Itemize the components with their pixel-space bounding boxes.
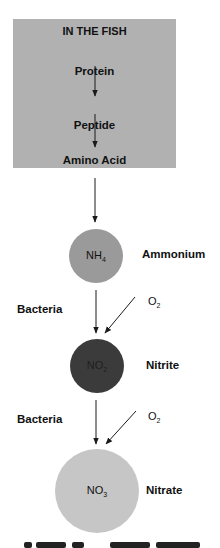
ammonium-circle: NH4 <box>69 229 123 283</box>
ammonium-label: Ammonium <box>142 248 205 260</box>
arrow-o2-nitrite <box>105 297 135 333</box>
bacteria-label-2: Bacteria <box>17 413 62 425</box>
o2-label-2: O2 <box>148 410 160 424</box>
ammonium-formula: NH4 <box>86 249 106 263</box>
nitrate-formula: NO3 <box>87 484 107 498</box>
cropped-caption-text <box>10 541 210 548</box>
nitrite-circle: NO2 <box>70 339 124 393</box>
o2-label-1: O2 <box>148 295 160 309</box>
nitrate-label: Nitrate <box>146 484 182 496</box>
nitrate-circle: NO3 <box>55 449 139 533</box>
bacteria-label-1: Bacteria <box>17 303 62 315</box>
arrow-o2-nitrate <box>106 411 136 444</box>
nitrite-formula: NO2 <box>87 359 107 373</box>
nitrite-label: Nitrite <box>146 359 179 371</box>
